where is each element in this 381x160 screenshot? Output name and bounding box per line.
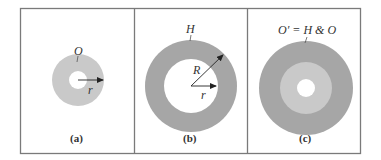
- region-label-h: H: [185, 22, 196, 36]
- panel-c: O′ = H & O (c): [259, 23, 353, 145]
- radius-label-r: r: [88, 83, 93, 97]
- panel-b: R r H (b): [145, 22, 237, 145]
- inner-hole: [297, 79, 315, 97]
- radius-label-big-r: R: [192, 63, 201, 77]
- caption-b: (b): [183, 132, 197, 145]
- caption-c: (c): [299, 132, 312, 145]
- panel-a: r O (a): [52, 44, 104, 145]
- region-label-union: O′ = H & O: [278, 23, 336, 37]
- annulus-diagram: r O (a) R r H (b) O′ = H & O (c): [0, 0, 381, 160]
- radius-label-small-r: r: [201, 88, 206, 102]
- region-label-o: O: [74, 44, 83, 58]
- caption-a: (a): [70, 132, 83, 145]
